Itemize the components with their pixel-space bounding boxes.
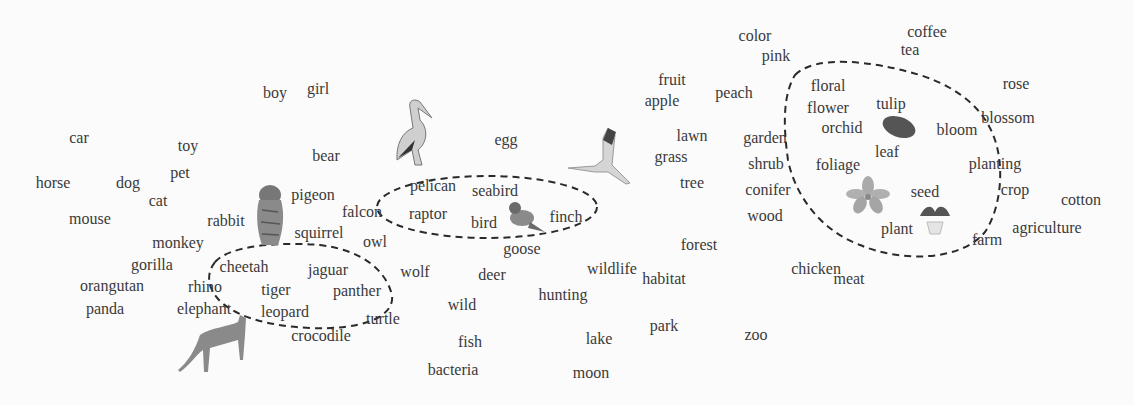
word-label-panther: panther [333,283,381,299]
word-embedding-diagram: colorpinkcoffeeteaboygirlfruitapplepeach… [0,0,1134,405]
word-label-egg: egg [494,132,517,148]
word-label-lake: lake [586,331,613,347]
word-label-blossom: blossom [981,110,1034,126]
word-label-flower: flower [807,100,849,116]
word-label-apple: apple [645,93,680,109]
word-label-cheetah: cheetah [220,259,269,275]
word-label-car: car [69,130,89,146]
word-label-color: color [739,28,772,44]
word-label-conifer: conifer [745,182,790,198]
word-label-wolf: wolf [400,264,429,280]
word-label-pigeon: pigeon [291,187,335,203]
tiger-image [257,185,283,245]
word-label-dog: dog [116,175,140,191]
leaf-image [880,112,919,142]
word-label-fish: fish [458,334,482,350]
word-label-jaguar: jaguar [308,262,348,278]
word-label-rhino: rhino [188,279,222,295]
word-label-park: park [650,318,678,334]
word-label-panda: panda [86,301,124,317]
word-label-bird: bird [471,215,497,231]
word-label-bear: bear [312,148,340,164]
word-label-shrub: shrub [748,156,784,172]
word-label-gorilla: gorilla [131,257,173,273]
word-label-fruit: fruit [658,72,686,88]
orchid-image [846,176,890,216]
word-label-lawn: lawn [676,128,707,144]
word-label-deer: deer [478,267,506,283]
word-label-meat: meat [833,271,864,287]
word-label-elephant: elephant [177,301,231,317]
word-label-rabbit: rabbit [207,213,244,229]
pelican-image [397,100,432,165]
word-label-moon: moon [573,365,609,381]
word-label-mouse: mouse [69,211,111,227]
word-label-goose: goose [503,241,540,257]
sparrow-image [509,202,545,232]
word-label-tulip: tulip [876,96,905,112]
word-label-pet: pet [170,165,190,181]
word-label-orchid: orchid [822,120,863,136]
word-label-wildlife: wildlife [587,261,637,277]
word-label-planting: planting [969,156,1021,172]
cheetah-image [178,315,246,372]
word-label-farm: farm [972,232,1002,248]
word-label-foliage: foliage [816,157,860,173]
word-label-habitat: habitat [642,271,686,287]
word-label-garden: garden [743,130,787,146]
word-label-toy: toy [178,138,198,154]
word-label-floral: floral [811,78,846,94]
word-label-forest: forest [681,237,717,253]
word-label-plant: plant [881,221,913,237]
word-label-falcon: falcon [342,204,382,220]
word-label-peach: peach [715,85,752,101]
word-label-orangutan: orangutan [80,278,144,294]
word-label-raptor: raptor [409,206,447,222]
word-label-bacteria: bacteria [428,362,479,378]
word-label-zoo: zoo [744,327,767,343]
word-label-pink: pink [762,48,790,64]
word-label-hunting: hunting [539,287,588,303]
word-label-cat: cat [149,193,168,209]
word-label-seed: seed [911,184,939,200]
word-label-leaf: leaf [875,144,899,160]
word-label-finch: finch [550,209,583,225]
word-label-turtle: turtle [366,311,400,327]
word-label-agriculture: agriculture [1012,220,1081,236]
word-label-grass: grass [655,149,688,165]
word-label-rose: rose [1003,76,1030,92]
cluster-outlines [0,0,1134,405]
word-label-tiger: tiger [261,282,290,298]
word-label-pelican: pelican [410,178,456,194]
word-label-crocodile: crocodile [291,328,351,344]
word-label-squirrel: squirrel [295,225,344,241]
word-label-monkey: monkey [152,235,204,251]
word-label-boy: boy [263,85,287,101]
word-label-crop: crop [1001,182,1029,198]
word-label-tree: tree [680,175,704,191]
word-label-wild: wild [448,297,476,313]
word-label-cotton: cotton [1061,192,1101,208]
word-label-wood: wood [747,208,783,224]
crane-image [568,128,630,184]
word-label-horse: horse [36,175,71,191]
word-label-owl: owl [363,234,387,250]
word-label-girl: girl [307,81,329,97]
word-label-tea: tea [901,42,920,58]
word-label-coffee: coffee [907,24,947,40]
word-label-seabird: seabird [472,183,518,199]
potted-plant-image [920,207,950,234]
word-label-leopard: leopard [261,304,309,320]
word-label-bloom: bloom [937,122,978,138]
